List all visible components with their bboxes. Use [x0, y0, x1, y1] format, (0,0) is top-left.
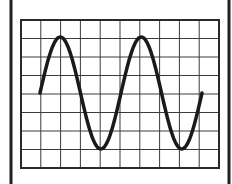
sine-wave-trace — [40, 37, 202, 149]
oscilloscope-screen — [0, 0, 232, 184]
